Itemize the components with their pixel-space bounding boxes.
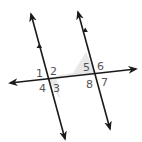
angle-label-7: 7: [101, 76, 108, 89]
angle-label-1: 1: [36, 67, 43, 80]
angle-label-4: 4: [39, 82, 46, 95]
angle-label-8: 8: [86, 78, 93, 91]
angle-label-6: 6: [97, 60, 104, 73]
parallel-lines-transversal-diagram: 1 2 3 4 5 6 7 8: [0, 0, 142, 142]
angle-label-2: 2: [50, 65, 57, 78]
angle-label-5: 5: [83, 61, 90, 74]
parallel-mark-icon: [37, 44, 43, 49]
angle-label-3: 3: [53, 82, 60, 95]
transversal-line: [10, 69, 136, 83]
